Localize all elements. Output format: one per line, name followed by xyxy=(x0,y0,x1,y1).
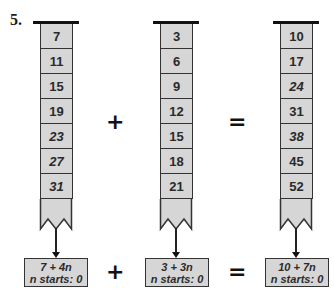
machine-column: 7 11 15 19 23 27 31 xyxy=(40,24,73,199)
sequence-cell: 6 xyxy=(161,49,192,74)
zigzag-tail-icon xyxy=(39,199,73,231)
sequence-cell: 23 xyxy=(41,124,72,149)
sequence-cell: 21 xyxy=(161,174,192,199)
rule-box-middle: 3 + 3n n starts: 0 xyxy=(145,258,209,287)
sequence-cell: 12 xyxy=(161,99,192,124)
sequence-cell: 31 xyxy=(41,174,72,199)
sequence-cell: 3 xyxy=(161,24,192,49)
rule-expression: 3 + 3n xyxy=(161,261,193,273)
sequence-cell: 7 xyxy=(41,24,72,49)
rule-start: n starts: 0 xyxy=(30,273,83,285)
equals-sign: = xyxy=(228,109,246,134)
machine-column: 3 6 9 12 15 18 21 xyxy=(160,24,193,199)
rule-expression: 7 + 4n xyxy=(40,261,72,273)
sequence-cell: 15 xyxy=(41,74,72,99)
sequence-cell: 45 xyxy=(281,149,312,174)
cutoff-previous-line xyxy=(0,0,200,3)
problem-number: 5. xyxy=(10,11,22,29)
rule-box-left: 7 + 4n n starts: 0 xyxy=(24,258,88,287)
sequence-cell: 19 xyxy=(41,99,72,124)
rule-expression: 10 + 7n xyxy=(278,261,316,273)
sequence-cell: 10 xyxy=(281,24,312,49)
plus-sign-rules: + xyxy=(106,259,124,284)
rule-start: n starts: 0 xyxy=(151,273,204,285)
plus-sign: + xyxy=(106,109,124,134)
arrow-down-icon xyxy=(175,228,177,253)
number-machine-right: 10 17 24 31 38 45 52 xyxy=(273,21,319,294)
sequence-cell: 27 xyxy=(41,149,72,174)
number-machine-left: 7 11 15 19 23 27 31 xyxy=(33,21,79,294)
sequence-cell: 52 xyxy=(281,174,312,199)
machine-column: 10 17 24 31 38 45 52 xyxy=(280,24,313,199)
rule-box-right: 10 + 7n n starts: 0 xyxy=(265,258,329,287)
sequence-cell: 38 xyxy=(281,124,312,149)
sequence-cell: 17 xyxy=(281,49,312,74)
sequence-cell: 15 xyxy=(161,124,192,149)
arrow-down-icon xyxy=(55,228,57,253)
arrow-down-icon xyxy=(295,228,297,253)
sequence-cell: 31 xyxy=(281,99,312,124)
zigzag-tail-icon xyxy=(279,199,313,231)
number-machine-middle: 3 6 9 12 15 18 21 xyxy=(153,21,199,294)
rule-start: n starts: 0 xyxy=(271,273,324,285)
sequence-cell: 11 xyxy=(41,49,72,74)
sequence-cell: 9 xyxy=(161,74,192,99)
sequence-cell: 18 xyxy=(161,149,192,174)
zigzag-tail-icon xyxy=(159,199,193,231)
equals-sign-rules: = xyxy=(228,259,246,284)
sequence-cell: 24 xyxy=(281,74,312,99)
